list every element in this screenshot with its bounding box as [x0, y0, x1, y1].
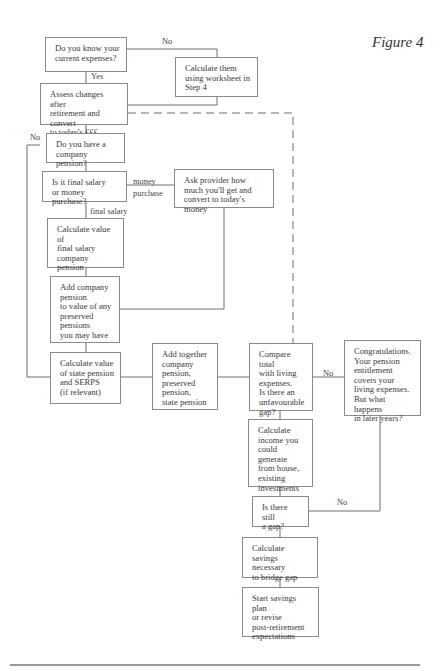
- node-ask-provider: Ask provider how much you'll get and con…: [174, 169, 274, 208]
- node-company-pension-question: Do you have a company pension?: [46, 133, 125, 163]
- edge-label-no-top: No: [162, 37, 172, 46]
- node-assess-changes: Assess changes after retirement and conv…: [40, 83, 128, 125]
- node-know-expenses: Do you know your current expenses?: [45, 37, 127, 72]
- node-calc-final-salary: Calculate value of final salary company …: [47, 218, 124, 268]
- node-add-together: Add together company pension, preserved …: [152, 343, 218, 410]
- edge-label-no-gap: No: [337, 498, 347, 507]
- edge-label-no-left: No: [30, 133, 40, 142]
- edge-label-final-salary: final salary: [90, 207, 127, 216]
- flowchart: Figure 4 Do you know your current expens…: [0, 0, 447, 671]
- node-start-savings: Start savings plan or revise post-retire…: [242, 587, 319, 637]
- edge-label-yes: Yes: [91, 72, 103, 81]
- edge-label-money-purchase: money purchase: [133, 176, 163, 200]
- node-congratulations: Congratulations. Your pension entitlemen…: [344, 340, 421, 416]
- node-calc-state-pension: Calculate value of state pension and SER…: [50, 352, 121, 404]
- node-add-company-pension: Add company pension to value of any pres…: [50, 276, 120, 343]
- node-final-or-money-purchase: Is it final salary or money purchase?: [42, 171, 127, 202]
- node-calc-income: Calculate income you could generate from…: [248, 419, 313, 487]
- edge-label-no-compare: No: [323, 369, 333, 378]
- node-calc-savings: Calculate savings necessary to bridge ga…: [242, 537, 318, 578]
- node-compare-total: Compare total with living expenses. Is t…: [249, 343, 313, 411]
- node-calculate-them: Calculate them using worksheet in Step 4: [175, 57, 258, 97]
- figure-title: Figure 4: [372, 34, 424, 51]
- node-still-gap: Is there still a gap?: [252, 496, 309, 527]
